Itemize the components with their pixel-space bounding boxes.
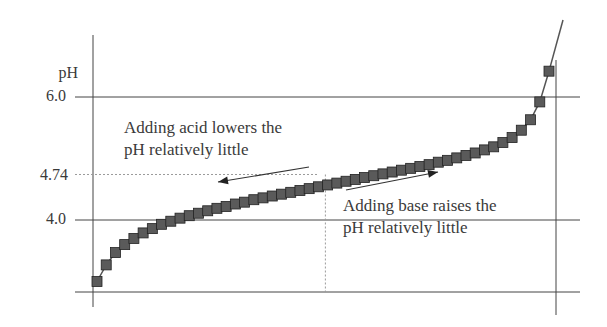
data-point <box>424 160 434 170</box>
data-point <box>461 150 471 160</box>
titration-chart <box>0 0 607 327</box>
y-tick-4: 4.0 <box>46 210 66 228</box>
data-point <box>184 211 194 221</box>
data-point <box>240 197 250 207</box>
data-point <box>396 165 406 175</box>
data-point <box>387 167 397 177</box>
data-point <box>147 224 157 234</box>
y-axis-label: pH <box>58 64 88 82</box>
data-point <box>166 216 176 226</box>
data-point <box>535 97 545 107</box>
acid-annotation: Adding acid lowers the pH relatively lit… <box>124 117 282 161</box>
data-point <box>295 185 305 195</box>
base-annotation: Adding base raises the pH relatively lit… <box>343 195 496 239</box>
data-point <box>120 240 130 250</box>
data-point <box>479 145 489 155</box>
data-point <box>276 189 286 199</box>
data-point <box>313 182 323 192</box>
data-point <box>304 184 314 194</box>
y-tick-474: 4.74 <box>40 166 68 184</box>
data-point <box>249 195 259 205</box>
curve-line <box>97 71 549 281</box>
data-point <box>470 148 480 158</box>
axes <box>75 35 580 315</box>
data-point <box>406 163 416 173</box>
data-point <box>544 66 554 76</box>
data-point <box>507 133 517 143</box>
data-point <box>369 171 379 181</box>
base-arrow-head <box>427 170 438 178</box>
data-point <box>230 199 240 209</box>
data-point <box>443 155 453 165</box>
data-point <box>526 115 536 125</box>
data-point <box>267 191 277 201</box>
data-point <box>378 169 388 179</box>
data-point <box>129 233 139 243</box>
data-point <box>101 260 111 270</box>
data-point <box>212 203 222 213</box>
data-point <box>452 153 462 163</box>
data-point <box>323 180 333 190</box>
data-point <box>341 176 351 186</box>
acid-annotation-line1: Adding acid lowers the <box>124 117 282 139</box>
data-point <box>203 206 213 216</box>
data-point <box>286 187 296 197</box>
data-point <box>110 248 120 258</box>
data-point <box>92 277 102 287</box>
acid-annotation-line2: pH relatively little <box>124 139 282 161</box>
data-point <box>258 193 268 203</box>
data-point <box>157 219 167 229</box>
base-annotation-line1: Adding base raises the <box>343 195 496 217</box>
base-annotation-line2: pH relatively little <box>343 217 496 239</box>
y-tick-6: 6.0 <box>46 87 66 105</box>
data-point <box>193 208 203 218</box>
data-point <box>221 201 231 211</box>
data-point <box>332 178 342 188</box>
data-point <box>415 161 425 171</box>
data-point <box>175 213 185 223</box>
data-point <box>516 125 526 135</box>
data-point <box>433 157 443 167</box>
data-point <box>489 142 499 152</box>
data-point <box>360 173 370 183</box>
acid-arrow-head <box>218 176 229 184</box>
data-point <box>498 138 508 148</box>
data-point <box>138 228 148 238</box>
data-point <box>350 174 360 184</box>
